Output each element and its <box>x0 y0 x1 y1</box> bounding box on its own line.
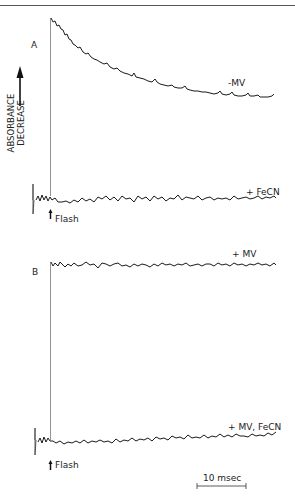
panel-b-flash-arrow-icon <box>49 460 53 470</box>
panel-b-flash-label: Flash <box>55 460 79 470</box>
panel-b-label: B <box>32 267 38 277</box>
panel-b-trace-bottom-label: + MV, FeCN <box>228 422 281 432</box>
panel-a-trace-bottom-label: + FeCN <box>246 187 280 197</box>
panel-b-baseline-start <box>35 428 36 455</box>
panel-b-trace-plus-mv-fecn <box>38 432 276 444</box>
panel-a-label: A <box>31 40 37 50</box>
panel-b-trace-top-label: + MV <box>232 249 256 259</box>
y-axis-label-line2: DECREASE <box>16 78 26 168</box>
panel-a-trace-top-label: -MV <box>228 78 245 88</box>
scale-bar-label: 10 msec <box>203 473 241 483</box>
panel-a-trace-plus-fecn <box>36 195 276 203</box>
scale-bar <box>197 483 246 489</box>
panel-a-flash-arrow-icon <box>49 209 53 219</box>
y-axis-label: ABSORBANCE DECREASE <box>2 60 42 180</box>
panel-a-baseline-start <box>33 184 34 214</box>
panel-a-flash-label: Flash <box>55 214 79 224</box>
panel-b-trace-plus-mv <box>51 262 276 268</box>
y-axis-label-line1: ABSORBANCE <box>6 78 16 168</box>
